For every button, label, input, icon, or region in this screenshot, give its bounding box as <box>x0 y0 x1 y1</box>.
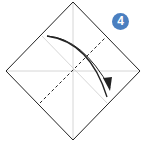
step-number-badge: 4 <box>112 13 129 30</box>
fold-arrow <box>47 36 112 97</box>
